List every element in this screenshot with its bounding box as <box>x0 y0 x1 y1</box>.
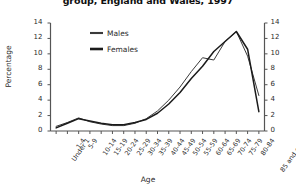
y-tick-label: 2 <box>29 111 43 119</box>
y-tick-label-right: 14 <box>271 18 285 26</box>
chart-figure: group, England and Wales, 1997 Percentag… <box>0 0 296 190</box>
y-tick-label-right: 10 <box>271 49 285 57</box>
y-tick-label-right: 8 <box>271 64 285 72</box>
y-tick-label-right: 2 <box>271 111 285 119</box>
y-tick-label: 14 <box>29 18 43 26</box>
y-tick-label-right: 6 <box>271 80 285 88</box>
plot-area <box>0 0 296 190</box>
y-axis-ticks <box>48 23 268 131</box>
y-tick-label-right: 12 <box>271 33 285 41</box>
axes <box>51 23 265 131</box>
y-tick-label-right: 4 <box>271 95 285 103</box>
data-series <box>56 31 259 127</box>
y-tick-label-right: 0 <box>271 126 285 134</box>
series-line-females <box>56 31 259 127</box>
legend-marks <box>90 33 103 49</box>
y-tick-label: 10 <box>29 49 43 57</box>
y-tick-label: 4 <box>29 95 43 103</box>
series-line-males <box>56 31 259 126</box>
y-tick-label: 0 <box>29 126 43 134</box>
y-tick-label: 6 <box>29 80 43 88</box>
y-tick-label: 12 <box>29 33 43 41</box>
y-tick-label: 8 <box>29 64 43 72</box>
